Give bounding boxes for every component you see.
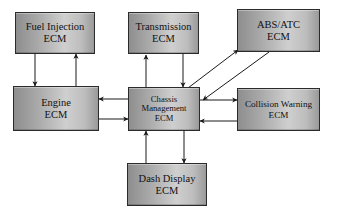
node-chassis-management[interactable]: Chassis Management ECM [128,87,200,131]
node-transmission[interactable]: Transmission ECM [128,12,199,54]
node-collision-warning-label: Collision Warning ECM [243,99,314,120]
node-dash-display[interactable]: Dash Display ECM [127,163,207,206]
edge-chassis-to-abs-atc [188,50,238,88]
node-dash-display-label: Dash Display ECM [137,173,198,197]
diagram-canvas: Fuel Injection ECM Transmission ECM ABS/… [0,0,337,220]
node-abs-atc[interactable]: ABS/ATC ECM [237,9,320,52]
node-engine-label: Engine ECM [39,97,73,121]
node-abs-atc-label: ABS/ATC ECM [255,19,302,43]
node-fuel-injection-label: Fuel Injection ECM [24,21,87,45]
node-collision-warning[interactable]: Collision Warning ECM [237,88,320,131]
node-chassis-management-label: Chassis Management ECM [140,95,189,124]
node-transmission-label: Transmission ECM [133,21,193,45]
node-engine[interactable]: Engine ECM [13,86,99,131]
node-fuel-injection[interactable]: Fuel Injection ECM [15,12,95,54]
